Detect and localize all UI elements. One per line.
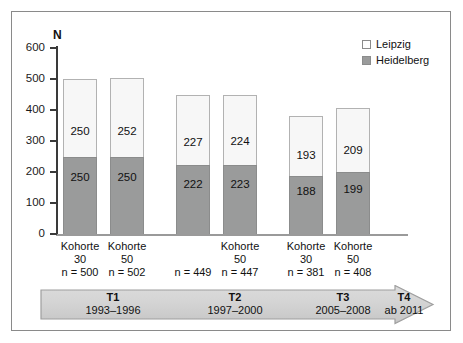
sample-size-label: n = 408 <box>314 266 392 279</box>
bar-segment-leipzig: 250 <box>63 79 97 157</box>
bar-value-heidelberg: 250 <box>70 172 89 184</box>
y-tick-label: 600 <box>0 42 45 54</box>
bar-value-leipzig: 252 <box>117 126 136 138</box>
stacked-bar: 227222 <box>176 95 210 234</box>
legend-item-heidelberg: Heidelberg <box>362 54 429 68</box>
bar-segment-leipzig: 227 <box>176 95 210 165</box>
x-axis-line <box>56 234 408 236</box>
bar-value-heidelberg: 199 <box>343 184 362 196</box>
timeline-phase-label: T4 <box>373 291 435 304</box>
y-tick-label: 500 <box>0 73 45 85</box>
bar-value-heidelberg: 188 <box>296 186 315 198</box>
bar-value-leipzig: 227 <box>183 137 202 149</box>
bar-value-leipzig: 209 <box>343 145 362 157</box>
stacked-bar: 252250 <box>110 78 144 234</box>
bar-value-leipzig: 250 <box>70 126 89 138</box>
bar-segment-heidelberg: 188 <box>289 176 323 234</box>
bar-segment-leipzig: 252 <box>110 78 144 156</box>
bar-segment-leipzig: 209 <box>336 108 370 173</box>
figure-root: N 6005004003002001000 250250252250227222… <box>0 0 463 343</box>
y-axis-label: N <box>53 28 62 42</box>
legend-label-leipzig: Leipzig <box>376 38 411 52</box>
stacked-bar: 250250 <box>63 79 97 234</box>
x-axis-group-label: Kohorte50n = 408 <box>314 240 392 279</box>
cohort-number: 50 <box>314 253 392 266</box>
timeline-phase: T11993–1996 <box>58 291 168 317</box>
timeline-phase: T21997–2000 <box>180 291 290 317</box>
bar-segment-heidelberg: 250 <box>110 157 144 235</box>
bar-value-heidelberg: 250 <box>117 172 136 184</box>
legend: Leipzig Heidelberg <box>362 38 429 69</box>
y-tick-label: 100 <box>0 197 45 209</box>
timeline-phase-label: T1 <box>58 291 168 304</box>
bar-value-heidelberg: 222 <box>183 179 202 191</box>
legend-label-heidelberg: Heidelberg <box>376 54 429 68</box>
bar-segment-heidelberg: 222 <box>176 165 210 234</box>
bar-segment-heidelberg: 199 <box>336 172 370 234</box>
timeline-phase: T4ab 2011 <box>373 291 435 317</box>
bar-value-heidelberg: 223 <box>230 179 249 191</box>
bar-segment-heidelberg: 223 <box>223 165 257 234</box>
timeline-arrow: T11993–1996T21997–2000T32005–2008T4ab 20… <box>40 285 435 325</box>
plot-area: 250250252250227222224223193188209199 <box>56 48 408 234</box>
y-tick-label: 400 <box>0 104 45 116</box>
y-tick-label: 0 <box>0 228 45 240</box>
bar-segment-leipzig: 193 <box>289 116 323 176</box>
legend-item-leipzig: Leipzig <box>362 38 429 52</box>
timeline-phase-years: 1997–2000 <box>180 304 290 317</box>
bar-segment-leipzig: 224 <box>223 95 257 164</box>
stacked-bar: 224223 <box>223 95 257 234</box>
timeline-phase-label: T2 <box>180 291 290 304</box>
heidelberg-swatch-icon <box>362 56 371 65</box>
bar-value-leipzig: 193 <box>296 150 315 162</box>
stacked-bar: 209199 <box>336 108 370 234</box>
stacked-bar: 193188 <box>289 116 323 234</box>
y-tick-label: 300 <box>0 135 45 147</box>
bar-value-leipzig: 224 <box>230 136 249 148</box>
timeline-phase-years: 1993–1996 <box>58 304 168 317</box>
timeline-phase-years: ab 2011 <box>373 304 435 317</box>
leipzig-swatch-icon <box>362 40 371 49</box>
cohort-label: Kohorte <box>314 240 392 253</box>
y-tick-label: 200 <box>0 166 45 178</box>
bar-segment-heidelberg: 250 <box>63 157 97 235</box>
